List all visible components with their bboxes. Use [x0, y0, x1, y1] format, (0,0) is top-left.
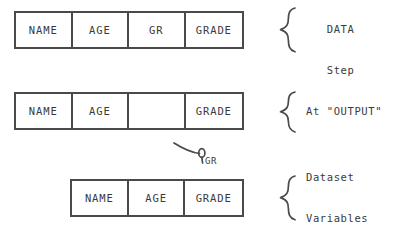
at-output-caption: At "OUTPUT": [306, 78, 382, 146]
curly-brace-icon: [276, 90, 298, 134]
dataset-variables-annotation: Dataset Variables: [276, 174, 368, 222]
pdv-cell: NAME: [16, 94, 73, 128]
caption-line: Dataset: [306, 171, 368, 185]
curly-brace-icon: [276, 6, 298, 54]
dataset-variables-caption: Dataset Variables: [306, 144, 368, 232]
curly-brace-icon: [276, 174, 298, 222]
pdv-cell: AGE: [73, 94, 130, 128]
callout-arrow-icon: [172, 138, 236, 174]
caption-line: Step: [306, 64, 375, 78]
during-data-step-pdv: NAME AGE GR GRADE: [14, 11, 244, 49]
pdv-cell: GRADE: [185, 181, 242, 215]
pdv-cell: AGE: [73, 13, 130, 47]
pdv-cell: GRADE: [186, 13, 242, 47]
pdv-cell: NAME: [16, 13, 73, 47]
caption-line: Variables: [306, 212, 368, 226]
dropped-variable-callout: GR: [172, 138, 236, 174]
pdv-cell: GR: [129, 13, 186, 47]
at-output-annotation: At "OUTPUT": [276, 90, 382, 134]
pdv-cell: NAME: [72, 181, 129, 215]
diagram-canvas: NAME AGE GR GRADE During the DATA Step N…: [0, 0, 412, 232]
caption-line: At "OUTPUT": [306, 105, 382, 119]
pdv-cell: AGE: [129, 181, 186, 215]
caption-line: DATA: [306, 23, 375, 37]
dataset-variables-pdv: NAME AGE GRADE: [70, 179, 244, 217]
during-data-step-annotation: During the DATA Step: [276, 6, 375, 54]
dropped-variable-label: GR: [205, 156, 217, 166]
pdv-cell: GRADE: [186, 94, 242, 128]
pdv-cell-empty: [129, 94, 186, 128]
at-output-pdv: NAME AGE GRADE: [14, 92, 244, 130]
